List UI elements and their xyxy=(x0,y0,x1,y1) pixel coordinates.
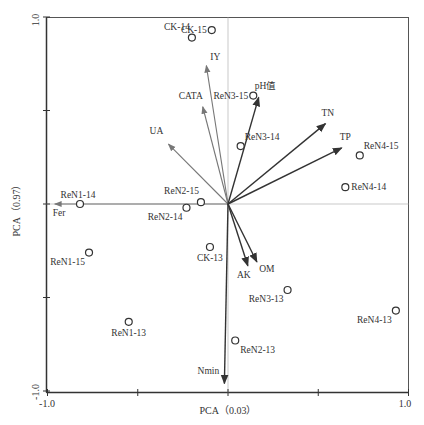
variable-arrows: IYCATAUAFerpH值TNTPAKOMNmin xyxy=(53,52,351,384)
circle-marker-icon xyxy=(125,318,132,325)
sample-point: ReN2-14 xyxy=(148,204,190,222)
sample-label: ReN3-14 xyxy=(245,132,280,142)
sample-point: ReN3-14 xyxy=(237,132,280,150)
sample-point: CK-13 xyxy=(197,244,223,264)
sample-point: ReN1-15 xyxy=(50,249,92,267)
variable-label: AK xyxy=(237,270,251,280)
variable-label: OM xyxy=(259,264,275,274)
variable-label: Nmin xyxy=(198,366,220,376)
sample-label: CK-13 xyxy=(197,253,223,263)
variable-label: TN xyxy=(321,108,334,118)
circle-marker-icon xyxy=(356,152,363,159)
x-axis-title: PCA（0.03） xyxy=(200,405,257,416)
sample-label: ReN2-15 xyxy=(164,186,199,196)
circle-marker-icon xyxy=(250,92,257,99)
arrow-tn-icon: TN xyxy=(228,108,334,204)
circle-marker-icon xyxy=(86,249,93,256)
arrow-tp-icon: TP xyxy=(228,132,351,204)
variable-label: TP xyxy=(340,132,351,142)
arrow-nmin-icon: Nmin xyxy=(198,204,228,384)
arrow-om-icon: OM xyxy=(228,204,275,274)
sample-label: ReN4-13 xyxy=(357,315,392,325)
sample-label: ReN2-14 xyxy=(148,212,183,222)
x-tick-label-max: 1.0 xyxy=(399,398,412,409)
variable-label: UA xyxy=(150,126,164,136)
sample-label: ReN1-15 xyxy=(50,257,85,267)
circle-marker-icon xyxy=(206,244,213,251)
sample-point: ReN2-13 xyxy=(232,337,276,355)
circle-marker-icon xyxy=(237,143,244,150)
sample-points: CK-15CK-14CK-13ReN1-14ReN1-15ReN1-13ReN2… xyxy=(50,22,399,355)
sample-label: CK-14 xyxy=(164,22,190,32)
sample-point: ReN4-14 xyxy=(342,182,387,192)
sample-point: ReN4-15 xyxy=(356,141,399,159)
variable-label: Fer xyxy=(53,208,67,218)
sample-label: ReN3-15 xyxy=(213,91,248,101)
circle-marker-icon xyxy=(76,201,83,208)
circle-marker-icon xyxy=(197,199,204,206)
x-tick-label-min: -1.0 xyxy=(39,398,55,409)
circle-marker-icon xyxy=(188,34,195,41)
variable-label: pH值 xyxy=(255,80,277,91)
sample-label: ReN4-15 xyxy=(364,141,399,151)
circle-marker-icon xyxy=(284,287,291,294)
sample-point: ReN1-13 xyxy=(111,318,146,338)
sample-label: ReN1-13 xyxy=(111,328,146,338)
sample-label: ReN3-13 xyxy=(249,294,284,304)
sample-point: ReN1-14 xyxy=(61,190,96,208)
sample-point: ReN2-15 xyxy=(164,186,204,206)
variable-label: IY xyxy=(210,52,220,62)
pca-biplot: IYCATAUAFerpH值TNTPAKOMNmin CK-15CK-14CK-… xyxy=(0,0,424,425)
arrow-iy-icon: IY xyxy=(206,52,228,204)
circle-marker-icon xyxy=(342,184,349,191)
sample-point: ReN4-13 xyxy=(357,307,399,325)
sample-point: ReN3-13 xyxy=(249,287,291,305)
sample-label: ReN1-14 xyxy=(61,190,96,200)
y-axis-title: PCA（0.97） xyxy=(11,180,22,237)
sample-label: ReN2-13 xyxy=(240,345,275,355)
sample-point: ReN3-15 xyxy=(213,91,256,101)
variable-label: CATA xyxy=(179,91,203,101)
circle-marker-icon xyxy=(183,204,190,211)
circle-marker-icon xyxy=(392,307,399,314)
y-tick-label-max: 1.0 xyxy=(30,14,41,27)
y-tick-label-min: -1.0 xyxy=(30,384,41,400)
sample-label: ReN4-14 xyxy=(351,182,386,192)
circle-marker-icon xyxy=(208,27,215,34)
circle-marker-icon xyxy=(232,337,239,344)
